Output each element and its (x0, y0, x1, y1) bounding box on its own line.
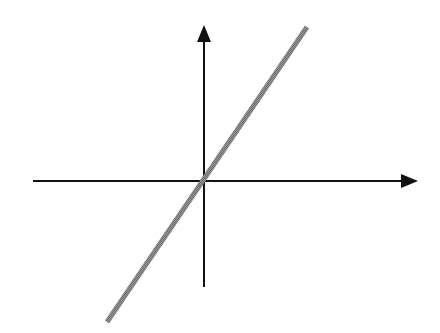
coordinate-diagram (0, 0, 440, 333)
background (0, 0, 440, 333)
